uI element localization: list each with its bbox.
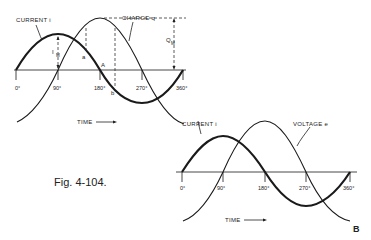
top-tick-label-180: 180° bbox=[94, 85, 105, 91]
arrow-right-icon bbox=[263, 219, 267, 222]
figure-canvas: CURRENT i CHARGE q I M Q M a A b 0° 90° … bbox=[0, 0, 371, 240]
top-tick-label-90: 90° bbox=[53, 85, 61, 91]
top-tick-label-270: 270° bbox=[136, 85, 147, 91]
bottom-tick-label-0: 0° bbox=[180, 185, 185, 191]
bottom-tick-label-90: 90° bbox=[217, 185, 225, 191]
i-max-subscript: M bbox=[56, 53, 60, 58]
voltage-label-leader bbox=[297, 127, 310, 146]
top-current-label: CURRENT i bbox=[16, 17, 51, 23]
point-A-label: A bbox=[101, 62, 105, 68]
q-max-subscript: M bbox=[171, 41, 175, 46]
bottom-current-curve bbox=[182, 136, 350, 206]
top-current-curve bbox=[16, 34, 183, 103]
charge-label-leader bbox=[129, 22, 133, 41]
bottom-voltage-curve bbox=[183, 121, 350, 221]
panel-b-label: B bbox=[353, 224, 360, 234]
bottom-time-label: TIME bbox=[225, 217, 241, 223]
i-max-label: I bbox=[52, 49, 54, 55]
bottom-diagram: CURRENT i VOLTAGE e 0° 90° 180° 270° 360… bbox=[176, 121, 360, 234]
top-tick-label-360: 360° bbox=[176, 85, 187, 91]
bottom-tick-label-270: 270° bbox=[299, 185, 310, 191]
arrow-down-icon bbox=[173, 66, 176, 70]
figure-caption: Fig. 4-104. bbox=[54, 176, 107, 188]
bottom-tick-label-360: 360° bbox=[343, 185, 354, 191]
bottom-current-label: CURRENT i bbox=[182, 121, 217, 127]
top-charge-label: CHARGE q bbox=[122, 15, 155, 21]
voltage-label: VOLTAGE e bbox=[293, 121, 329, 127]
arrow-up-icon bbox=[173, 18, 176, 22]
current-label-leader bbox=[36, 25, 42, 40]
point-a-label: a bbox=[82, 54, 86, 60]
bottom-tick-label-180: 180° bbox=[258, 185, 269, 191]
point-b-label: b bbox=[111, 90, 115, 96]
top-tick-label-0: 0° bbox=[15, 85, 20, 91]
arrow-up-icon bbox=[57, 36, 60, 40]
top-diagram: CURRENT i CHARGE q I M Q M a A b 0° 90° … bbox=[14, 15, 187, 125]
top-time-label: TIME bbox=[77, 119, 93, 125]
arrow-right-icon bbox=[113, 121, 117, 124]
